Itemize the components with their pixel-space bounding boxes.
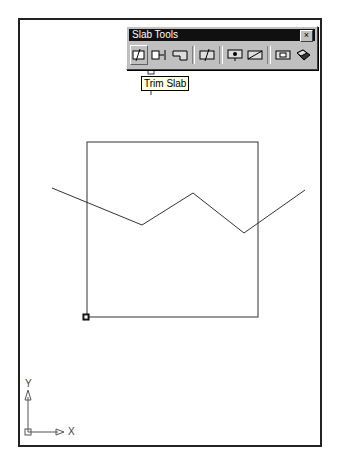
add-hole-button[interactable] bbox=[274, 45, 292, 65]
add-hole-icon bbox=[275, 48, 291, 62]
close-icon: × bbox=[304, 30, 309, 40]
cut-slab-button[interactable] bbox=[198, 45, 216, 65]
boolean-slab-icon bbox=[295, 48, 311, 62]
extend-slab-button[interactable] bbox=[150, 45, 168, 65]
ucs-y-label: Y bbox=[25, 378, 32, 389]
boolean-slab-button[interactable] bbox=[294, 45, 312, 65]
toolbar-title: Slab Tools bbox=[132, 29, 178, 40]
trim-slab-icon bbox=[131, 48, 147, 62]
toolbar-separator bbox=[192, 46, 196, 64]
slab-tools-toolbar[interactable]: Slab Tools × bbox=[126, 26, 318, 70]
modify-edge-button[interactable] bbox=[246, 45, 264, 65]
toolbar-separator bbox=[267, 46, 271, 64]
miter-slab-button[interactable] bbox=[171, 45, 189, 65]
trim-slab-button[interactable] bbox=[130, 45, 148, 65]
cut-slab-icon bbox=[199, 48, 215, 62]
tooltip: Trim Slab bbox=[141, 76, 189, 91]
close-button[interactable]: × bbox=[300, 30, 313, 42]
ucs-x-label: X bbox=[68, 426, 75, 437]
add-vertex-icon bbox=[227, 48, 243, 62]
add-vertex-button[interactable] bbox=[226, 45, 244, 65]
modify-edge-icon bbox=[247, 48, 263, 62]
extend-slab-icon bbox=[151, 48, 167, 62]
toolbar-title-bar[interactable]: Slab Tools × bbox=[129, 29, 315, 41]
miter-slab-icon bbox=[172, 48, 188, 62]
toolbar-separator bbox=[219, 46, 223, 64]
